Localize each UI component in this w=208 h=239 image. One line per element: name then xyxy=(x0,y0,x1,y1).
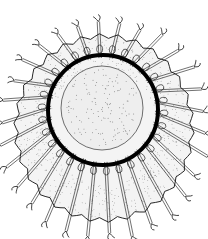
central-disc xyxy=(61,66,143,150)
medusa-drawing xyxy=(0,0,208,239)
medusa-illustration xyxy=(0,0,208,239)
